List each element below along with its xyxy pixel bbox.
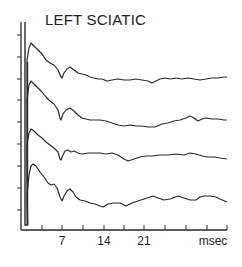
x-tick-label: 14 (97, 234, 110, 248)
chart-figure: LEFT SCIATIC 7 14 21 msec (0, 0, 242, 267)
trace-2 (27, 81, 227, 225)
traces (27, 43, 227, 225)
plot-area (0, 0, 242, 267)
trace-4 (27, 164, 227, 225)
trace-3 (27, 129, 227, 225)
x-tick-label: 21 (137, 234, 150, 248)
x-tick-label: 7 (59, 234, 66, 248)
x-axis-label: msec (199, 234, 228, 248)
trace-1 (27, 43, 227, 225)
